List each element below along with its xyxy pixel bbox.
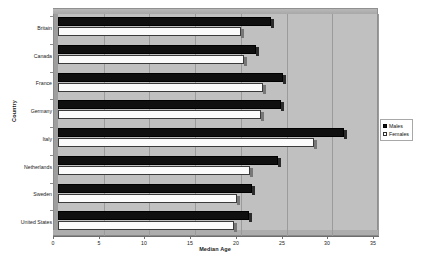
bar-females-united-states: [58, 221, 234, 230]
bar-males-canada: [58, 45, 256, 54]
y-axis-label-sweden: Sweden: [4, 191, 52, 197]
y-axis-category-labels: BritainCanadaFranceGermanyItalyNetherlan…: [0, 0, 52, 235]
bar-males-italy: [58, 128, 344, 137]
bar-shadow-females-united-states: [234, 223, 237, 232]
bar-shadow-males-sweden: [252, 186, 255, 195]
bar-shadow-females-canada: [244, 57, 247, 66]
bar-shadow-females-britain: [241, 29, 244, 38]
y-axis-label-united-states: United States: [4, 219, 52, 225]
median-age-bar-chart: Country BritainCanadaFranceGermanyItalyN…: [0, 0, 426, 264]
x-tick-label-35: 35: [363, 240, 383, 246]
bar-shadow-males-britain: [271, 19, 274, 28]
y-axis-label-germany: Germany: [4, 108, 52, 114]
filled-square-icon: [383, 124, 387, 128]
bar-shadow-males-netherlands: [278, 158, 281, 167]
y-axis-label-italy: Italy: [4, 136, 52, 142]
y-axis-label-netherlands: Netherlands: [4, 164, 52, 170]
bar-males-united-states: [58, 211, 249, 220]
bar-males-germany: [58, 100, 281, 109]
bar-males-sweden: [58, 184, 252, 193]
bar-females-france: [58, 83, 263, 92]
gridline-x-30: [332, 14, 333, 236]
bar-shadow-females-france: [263, 85, 266, 94]
bar-shadow-females-netherlands: [250, 168, 253, 177]
y-axis-label-canada: Canada: [4, 53, 52, 59]
bar-shadow-males-germany: [281, 102, 284, 111]
bar-shadow-males-france: [283, 75, 286, 84]
y-axis-label-france: France: [4, 80, 52, 86]
bar-females-canada: [58, 55, 244, 64]
x-axis-line: [53, 236, 379, 237]
x-tick-label-25: 25: [272, 240, 292, 246]
bar-females-italy: [58, 138, 314, 147]
legend-item-males[interactable]: Males: [383, 122, 409, 130]
bar-females-britain: [58, 27, 241, 36]
y-axis-label-britain: Britain: [4, 25, 52, 31]
legend-label-males: Males: [389, 123, 403, 129]
x-tick-label-30: 30: [317, 240, 337, 246]
x-tick-label-5: 5: [89, 240, 109, 246]
bar-shadow-females-germany: [261, 112, 264, 121]
gridline-x-25: [287, 14, 288, 236]
legend-label-females: Females: [389, 131, 409, 137]
x-tick-label-10: 10: [134, 240, 154, 246]
bar-shadow-females-sweden: [237, 196, 240, 205]
x-axis-title: Median Age: [160, 246, 270, 252]
chart-legend: Males Females: [380, 119, 413, 141]
bar-males-france: [58, 73, 283, 82]
legend-item-females[interactable]: Females: [383, 130, 409, 138]
bar-shadow-males-italy: [344, 130, 347, 139]
bar-females-germany: [58, 110, 261, 119]
empty-square-icon: [383, 132, 387, 136]
bar-shadow-females-italy: [314, 140, 317, 149]
bar-males-britain: [58, 17, 271, 26]
bar-males-netherlands: [58, 156, 278, 165]
bar-females-sweden: [58, 194, 237, 203]
gridline-x-35: [378, 14, 379, 236]
bar-shadow-males-canada: [256, 47, 259, 56]
bar-shadow-males-united-states: [249, 213, 252, 222]
bar-females-netherlands: [58, 166, 250, 175]
x-tick-label-0: 0: [43, 240, 63, 246]
